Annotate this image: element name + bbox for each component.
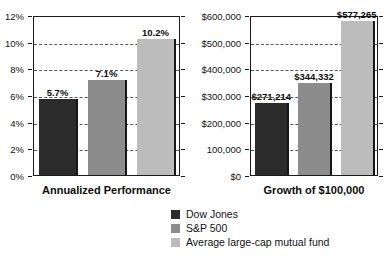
bar-shadow-edge <box>137 39 176 175</box>
y-axis-tick <box>245 43 249 44</box>
y-axis-tick <box>245 96 249 97</box>
y-axis-tick-right <box>379 123 383 124</box>
y-axis-tick-label: 4% <box>10 117 24 128</box>
y-axis-tick-right <box>379 43 383 44</box>
y-axis-tick-label: 12% <box>5 11 24 22</box>
y-axis-tick-right <box>181 149 185 150</box>
bar <box>88 80 127 175</box>
y-axis-tick <box>28 149 32 150</box>
bar-value-label: $344,332 <box>294 71 334 82</box>
bar-shadow-edge <box>39 99 78 175</box>
y-axis-tick-right <box>379 69 383 70</box>
y-axis-tick-right <box>379 96 383 97</box>
legend-swatch-sp500 <box>171 224 180 233</box>
y-axis-tick-label: 100,000 <box>207 144 241 155</box>
bar-value-label: $271,214 <box>252 91 292 102</box>
y-axis-tick <box>28 43 32 44</box>
chart-legend: Dow JonesS&P 500Average large-cap mutual… <box>171 207 329 249</box>
y-axis-tick-label: $0 <box>230 171 241 182</box>
legend-swatch-avg-large-cap-mutual-fund <box>171 238 180 247</box>
bar-value-label: $577,265 <box>337 9 377 20</box>
y-axis-tick <box>245 149 249 150</box>
y-axis-tick <box>245 123 249 124</box>
y-axis-tick-label: 6% <box>10 91 24 102</box>
y-axis-tick-right <box>181 69 185 70</box>
bar <box>341 21 375 175</box>
y-axis-tick <box>28 96 32 97</box>
bar-value-label: 5.7% <box>47 87 69 98</box>
y-axis-tick-label: $400,000 <box>201 64 241 75</box>
legend-label: Dow Jones <box>186 209 238 220</box>
y-axis-tick-right <box>181 96 185 97</box>
y-axis-tick-label: $300,000 <box>201 91 241 102</box>
bar-value-label: 10.2% <box>142 27 169 38</box>
y-axis-tick <box>28 123 32 124</box>
bar-shadow-edge <box>88 80 127 175</box>
legend-item-sp500: S&P 500 <box>171 221 329 235</box>
bar-shadow-edge <box>255 103 289 175</box>
y-axis-tick-right <box>181 43 185 44</box>
y-axis-tick <box>28 16 32 17</box>
y-axis-tick-right <box>379 149 383 150</box>
y-axis-tick-label: 10% <box>5 37 24 48</box>
bar-shadow-edge <box>298 83 332 175</box>
bar-value-label: 7.1% <box>96 68 118 79</box>
y-axis-tick-label: $600,000 <box>201 11 241 22</box>
y-axis-tick-right <box>181 16 185 17</box>
legend-swatch-dow-jones <box>171 210 180 219</box>
y-axis-tick-label: $200,000 <box>201 117 241 128</box>
y-axis-tick <box>245 69 249 70</box>
y-axis-tick <box>28 69 32 70</box>
axis-title-left: Annualized Performance <box>33 184 180 196</box>
y-axis-tick <box>245 16 249 17</box>
bar <box>255 103 289 175</box>
y-axis-tick-label: 0% <box>10 171 24 182</box>
legend-item-dow-jones: Dow Jones <box>171 207 329 221</box>
legend-item-avg-large-cap-mutual-fund: Average large-cap mutual fund <box>171 235 329 249</box>
y-axis-tick-label: $500,000 <box>201 37 241 48</box>
y-axis-tick-right <box>181 123 185 124</box>
legend-label: S&P 500 <box>186 223 227 234</box>
y-axis-tick-right <box>379 16 383 17</box>
y-axis-tick <box>28 176 32 177</box>
legend-label: Average large-cap mutual fund <box>186 237 329 248</box>
y-axis-tick-right <box>181 176 185 177</box>
y-axis-tick <box>245 176 249 177</box>
chart-growth-of-100000: $0100,000$200,000$300,000$400,000$500,00… <box>250 16 378 176</box>
chart-annualized-performance: 0%2%4%6%8%10%12% 5.7%7.1%10.2% Annualize… <box>33 16 180 176</box>
y-axis-tick-label: 2% <box>10 144 24 155</box>
y-axis-tick-label: 8% <box>10 64 24 75</box>
bar <box>137 39 176 175</box>
y-axis-tick-right <box>379 176 383 177</box>
axis-title-right: Growth of $100,000 <box>250 184 378 196</box>
bar <box>298 83 332 175</box>
bar <box>39 99 78 175</box>
bar-shadow-edge <box>341 21 375 175</box>
